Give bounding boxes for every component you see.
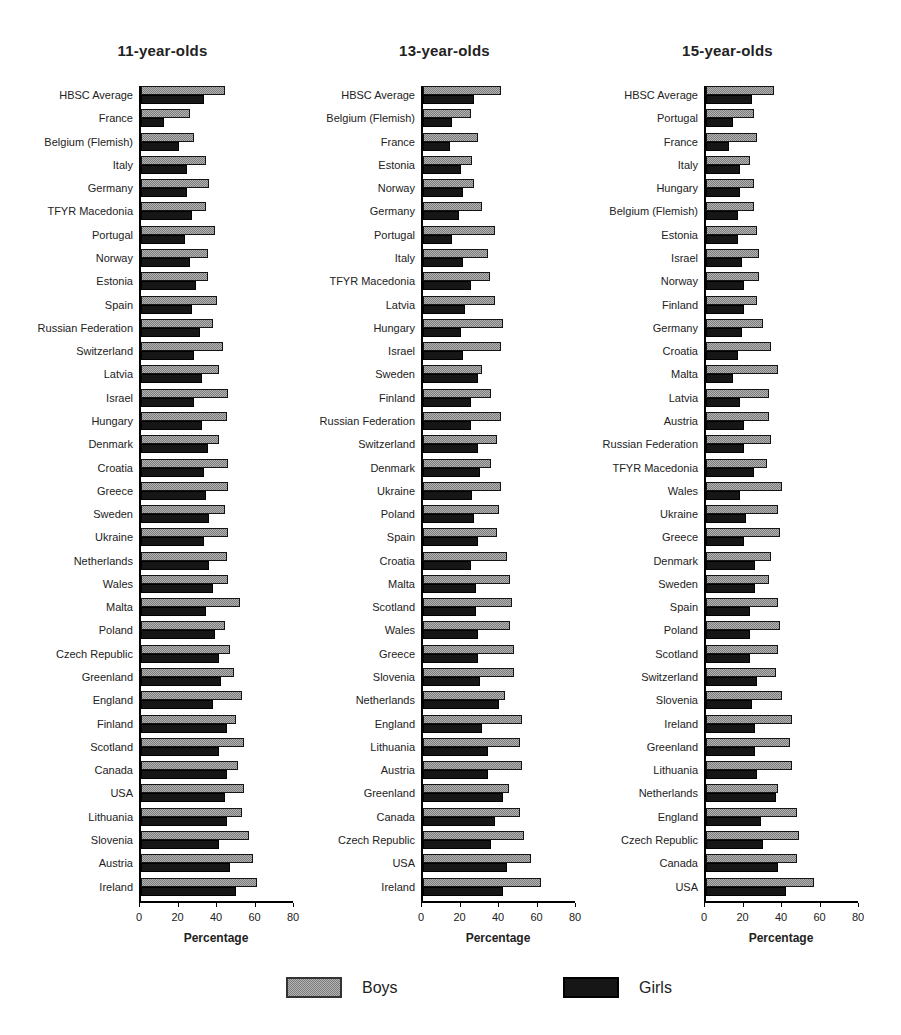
category-label: HBSC Average	[59, 86, 133, 104]
tick-label: 40	[492, 911, 504, 923]
tick-label: 20	[171, 911, 183, 923]
boys-bar	[706, 668, 776, 677]
boys-bar	[423, 86, 501, 95]
girls-swatch-icon	[563, 977, 619, 998]
category-label: England	[375, 715, 415, 733]
bar-group: Spain	[706, 598, 858, 621]
boys-bar	[706, 575, 769, 584]
boys-bar	[706, 319, 763, 328]
girls-bar	[141, 398, 194, 407]
legend-item-boys: Boys	[286, 977, 398, 998]
boys-bar	[706, 109, 754, 118]
category-label: Canada	[94, 761, 133, 779]
girls-bar	[423, 770, 488, 779]
category-label: TFYR Macedonia	[47, 202, 133, 220]
girls-bar	[141, 584, 213, 593]
tick-mark	[704, 903, 705, 907]
category-label: Italy	[395, 249, 415, 267]
category-label: Wales	[668, 482, 698, 500]
girls-bar	[141, 235, 185, 244]
category-label: Latvia	[104, 365, 133, 383]
girls-bar	[706, 770, 757, 779]
category-label: Czech Republic	[338, 831, 415, 849]
bar-group: Spain	[423, 528, 575, 551]
category-label: Ireland	[381, 878, 415, 896]
tick-mark	[498, 903, 499, 907]
girls-bar	[141, 468, 204, 477]
girls-bar	[423, 747, 488, 756]
bar-group: Denmark	[141, 435, 293, 458]
girls-bar	[141, 677, 221, 686]
x-axis-label: Percentage	[139, 931, 293, 945]
girls-bar	[141, 654, 219, 663]
category-label: USA	[675, 878, 698, 896]
category-label: Malta	[671, 365, 698, 383]
girls-bar	[706, 491, 740, 500]
bar-group: Austria	[141, 854, 293, 877]
boys-bar	[141, 249, 208, 258]
boys-bar	[423, 738, 520, 747]
girls-bar	[706, 817, 761, 826]
girls-bar	[706, 211, 738, 220]
girls-bar	[706, 281, 744, 290]
boys-bar	[423, 854, 531, 863]
tick-label: 20	[736, 911, 748, 923]
boys-bar	[706, 296, 757, 305]
bar-group: Portugal	[706, 109, 858, 132]
girls-bar	[423, 607, 476, 616]
panel-13-year-olds: 13-year-oldsHBSC AverageBelgium (Flemish…	[314, 40, 575, 947]
tick-label: 60	[248, 911, 260, 923]
girls-bar	[423, 421, 471, 430]
girls-bar	[706, 258, 742, 267]
boys-bar	[423, 365, 482, 374]
bar-group: Slovenia	[423, 668, 575, 691]
bar-group: Lithuania	[423, 738, 575, 761]
boys-bar	[706, 342, 771, 351]
boys-bar	[141, 808, 242, 817]
girls-bar	[706, 118, 733, 127]
boys-bar	[141, 86, 225, 95]
bar-group: Austria	[423, 761, 575, 784]
boys-bar	[423, 691, 505, 700]
category-label: Norway	[661, 272, 698, 290]
tick-mark	[537, 903, 538, 907]
girls-bar	[423, 491, 472, 500]
category-label: Portugal	[657, 109, 698, 127]
category-label: Belgium (Flemish)	[326, 109, 415, 127]
girls-bar	[423, 328, 461, 337]
bar-group: Italy	[706, 156, 858, 179]
girls-bar	[706, 444, 744, 453]
boys-bar	[706, 179, 754, 188]
category-label: Canada	[659, 854, 698, 872]
category-label: Netherlands	[74, 552, 133, 570]
boys-bar	[706, 412, 769, 421]
girls-bar	[423, 188, 463, 197]
girls-bar	[706, 561, 755, 570]
category-label: Portugal	[92, 226, 133, 244]
category-label: Greece	[662, 528, 698, 546]
girls-bar	[423, 374, 478, 383]
boys-bar	[141, 691, 242, 700]
girls-bar	[706, 165, 740, 174]
girls-bar	[423, 724, 482, 733]
category-label: Greenland	[82, 668, 133, 686]
girls-bar	[141, 211, 192, 220]
category-label: Slovenia	[373, 668, 415, 686]
girls-bar	[706, 421, 744, 430]
boys-bar	[141, 226, 215, 235]
category-label: Austria	[381, 761, 415, 779]
boys-bar	[423, 575, 510, 584]
girls-bar	[423, 281, 471, 290]
bar-group: Wales	[423, 621, 575, 644]
category-label: Wales	[385, 621, 415, 639]
category-label: Poland	[664, 621, 698, 639]
girls-bar	[141, 374, 202, 383]
bar-group: Croatia	[141, 459, 293, 482]
boys-bar	[141, 668, 234, 677]
category-label: Lithuania	[370, 738, 415, 756]
boys-bar	[141, 738, 244, 747]
category-label: Croatia	[663, 342, 698, 360]
girls-bar	[141, 887, 236, 896]
x-axis-label: Percentage	[421, 931, 575, 945]
category-label: Czech Republic	[621, 831, 698, 849]
